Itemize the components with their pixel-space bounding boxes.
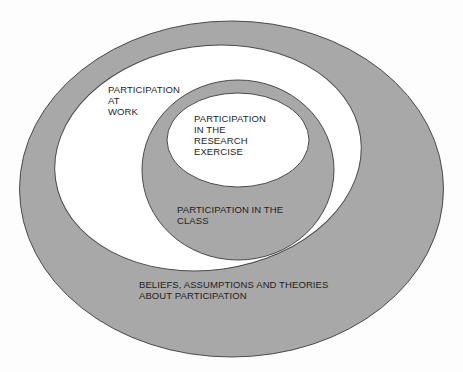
work-label: PARTICIPATION AT WORK <box>108 84 180 117</box>
research-label-line: RESEARCH <box>194 135 266 146</box>
beliefs-label-line: ABOUT PARTICIPATION <box>139 290 328 301</box>
class-label: PARTICIPATION IN THE CLASS <box>177 204 283 226</box>
diagram-shapes <box>0 0 463 372</box>
research-label: PARTICIPATION IN THE RESEARCH EXERCISE <box>194 113 266 157</box>
research-label-line: EXERCISE <box>194 146 266 157</box>
class-label-line: PARTICIPATION IN THE <box>177 204 283 215</box>
beliefs-label: BELIEFS, ASSUMPTIONS AND THEORIES ABOUT … <box>139 279 328 301</box>
research-label-line: IN THE <box>194 124 266 135</box>
class-label-line: CLASS <box>177 215 283 226</box>
work-label-line: PARTICIPATION <box>108 84 180 95</box>
work-label-line: AT <box>108 95 180 106</box>
research-label-line: PARTICIPATION <box>194 113 266 124</box>
nested-participation-diagram: PARTICIPATION AT WORK PARTICIPATION IN T… <box>0 0 463 372</box>
beliefs-label-line: BELIEFS, ASSUMPTIONS AND THEORIES <box>139 279 328 290</box>
work-label-line: WORK <box>108 106 180 117</box>
